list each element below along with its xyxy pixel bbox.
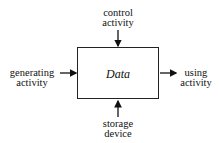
bottom-label-line2: device — [100, 129, 136, 139]
right-label: using activity — [178, 68, 214, 88]
data-flow-diagram: Data control activity generating activit… — [0, 0, 219, 143]
data-box: Data — [77, 47, 159, 99]
box-label: Data — [78, 67, 158, 82]
right-label-line2: activity — [178, 78, 214, 88]
top-label: control activity — [102, 8, 134, 28]
top-label-line2: activity — [102, 18, 134, 28]
left-label: generating activity — [6, 68, 58, 88]
left-label-line2: activity — [6, 78, 58, 88]
bottom-label: storage device — [100, 119, 136, 139]
